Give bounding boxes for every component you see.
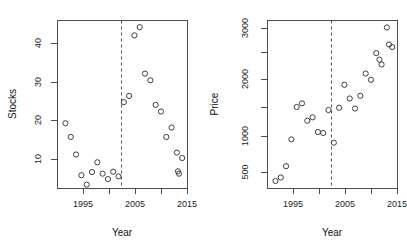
- price-ylabel: Price: [209, 92, 220, 115]
- price-xtick-2015: 2015: [387, 199, 407, 209]
- stocks-scatter-plot: Stocks Year 10 20 30 40 1995 2005 2015: [0, 0, 203, 246]
- data-point: [142, 71, 147, 76]
- data-point: [68, 134, 73, 139]
- data-point: [63, 121, 68, 126]
- data-point: [358, 93, 363, 98]
- stocks-ytick-10: 10: [33, 154, 43, 164]
- data-point: [299, 101, 304, 106]
- data-point: [321, 130, 326, 135]
- data-point: [89, 169, 94, 174]
- figure-container: Stocks Year 10 20 30 40 1995 2005 2015: [0, 0, 407, 246]
- price-xlabel: Year: [322, 227, 343, 238]
- data-point: [283, 164, 288, 169]
- data-point: [289, 137, 294, 142]
- panel-price: Price Year 500 1000 2000 3000 1995 2005 …: [204, 0, 407, 246]
- stocks-xtick-2005: 2005: [125, 199, 145, 209]
- stocks-x-ticks: [84, 189, 188, 194]
- stocks-ylabel: Stocks: [7, 89, 18, 119]
- data-point: [374, 51, 379, 56]
- data-point: [331, 140, 336, 145]
- price-xtick-1995: 1995: [283, 199, 303, 209]
- data-point: [153, 102, 158, 107]
- data-point: [384, 25, 389, 30]
- data-point: [116, 174, 121, 179]
- data-point: [158, 109, 163, 114]
- data-point: [169, 125, 174, 130]
- data-point: [95, 160, 100, 165]
- stocks-xtick-1995: 1995: [73, 199, 93, 209]
- data-point: [84, 182, 89, 187]
- data-point: [132, 33, 137, 38]
- data-point: [305, 118, 310, 123]
- data-point: [127, 93, 132, 98]
- data-point: [315, 129, 320, 134]
- data-point: [73, 152, 78, 157]
- price-data-points: [273, 25, 395, 184]
- stocks-y-ticks: [51, 44, 57, 160]
- data-point: [273, 178, 278, 183]
- data-point: [310, 115, 315, 120]
- price-x-ticks: [294, 189, 398, 194]
- stocks-ytick-20: 20: [33, 115, 43, 125]
- stocks-xlabel: Year: [112, 227, 133, 238]
- data-point: [347, 96, 352, 101]
- data-point: [100, 171, 105, 176]
- data-point: [278, 175, 283, 180]
- price-ytick-1000: 1000: [240, 126, 250, 146]
- data-point: [180, 155, 185, 160]
- data-point: [352, 106, 357, 111]
- price-ytick-2000: 2000: [240, 69, 250, 89]
- data-point: [105, 177, 110, 182]
- price-scatter-plot: Price Year 500 1000 2000 3000 1995 2005 …: [204, 0, 407, 246]
- data-point: [363, 71, 368, 76]
- data-point: [174, 150, 179, 155]
- price-ytick-3000: 3000: [240, 18, 250, 38]
- data-point: [368, 77, 373, 82]
- data-point: [79, 173, 84, 178]
- stocks-ytick-40: 40: [33, 38, 43, 48]
- price-ytick-500: 500: [240, 164, 250, 179]
- data-point: [337, 105, 342, 110]
- stocks-ytick-30: 30: [33, 77, 43, 87]
- data-point: [148, 78, 153, 83]
- stocks-xtick-2015: 2015: [177, 199, 197, 209]
- price-xtick-2005: 2005: [335, 199, 355, 209]
- data-point: [111, 169, 116, 174]
- data-point: [342, 82, 347, 87]
- stocks-data-points: [63, 25, 185, 188]
- data-point: [377, 57, 382, 62]
- data-point: [164, 134, 169, 139]
- data-point: [137, 25, 142, 30]
- data-point: [326, 107, 331, 112]
- data-point: [121, 100, 126, 105]
- panel-stocks: Stocks Year 10 20 30 40 1995 2005 2015: [0, 0, 203, 246]
- data-point: [294, 104, 299, 109]
- price-y-ticks: [261, 29, 267, 173]
